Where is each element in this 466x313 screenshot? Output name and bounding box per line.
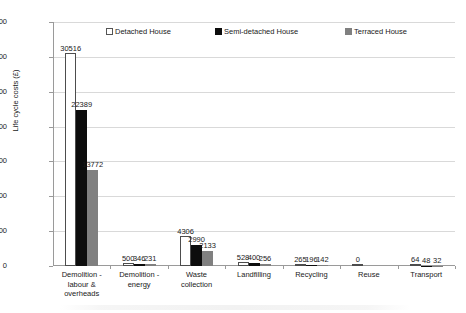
bar-chart: Life cycle costs (£) 0500010000150002000… <box>0 0 466 313</box>
bar[interactable]: 64 <box>410 264 421 266</box>
bar-value-label: 0 <box>356 256 360 264</box>
bar[interactable]: 500 <box>123 263 134 266</box>
legend-label-detached: Detached House <box>115 27 171 36</box>
x-axis-tick <box>283 266 284 269</box>
x-axis-category-label: Demolition -labour &overheads <box>53 270 110 299</box>
bar-value-label: 2133 <box>199 242 216 250</box>
bar[interactable]: 400 <box>249 263 260 266</box>
category-label-line: Reuse <box>340 270 397 280</box>
category-label-line: energy <box>110 280 167 290</box>
y-axis-tick-label: 35000 <box>0 18 7 26</box>
y-axis-tick-label: 30000 <box>0 53 7 61</box>
x-axis-tick <box>340 266 341 269</box>
bar-value-label: 256 <box>259 255 272 263</box>
x-axis-category-label: Recycling <box>283 270 340 280</box>
legend-label-semi-detached: Semi-detached House <box>224 27 298 36</box>
chart-legend: Detached House Semi-detached House Terra… <box>106 27 366 39</box>
bar[interactable]: 30516 <box>65 53 76 266</box>
category-label-line: Waste <box>168 270 225 280</box>
bar[interactable]: 13772 <box>87 170 98 266</box>
legend-item-detached-house: Detached House <box>106 27 171 36</box>
category-label-line: labour & <box>53 280 110 290</box>
bar[interactable]: 0 <box>352 264 363 266</box>
y-axis-line <box>53 22 54 266</box>
bar-value-label: 32 <box>433 257 441 265</box>
y-axis-tick-label: 20000 <box>0 123 7 131</box>
bar[interactable]: 231 <box>145 264 156 266</box>
category-label-line: Demolition - <box>110 270 167 280</box>
bar[interactable]: 196 <box>306 265 317 266</box>
page-bottom-artifact <box>60 305 410 310</box>
legend-label-terraced: Terraced House <box>354 27 407 36</box>
bar-value-label: 30516 <box>60 45 81 53</box>
y-axis-tick-label: 25000 <box>0 88 7 96</box>
y-axis-tick <box>49 266 53 267</box>
x-axis-category-label: Reuse <box>340 270 397 280</box>
bar[interactable]: 22389 <box>76 110 87 266</box>
y-axis-tick-label: 0 <box>0 262 7 270</box>
x-axis-category-label: Transport <box>398 270 455 280</box>
x-axis-tick <box>398 266 399 269</box>
bar[interactable]: 142 <box>317 265 328 266</box>
category-label-line: Transport <box>398 270 455 280</box>
bar-value-label: 64 <box>411 256 419 264</box>
category-label-line: Landfilling <box>225 270 282 280</box>
category-label-line: Demolition - <box>53 270 110 280</box>
x-axis-tick <box>110 266 111 269</box>
y-axis-tick-label: 5000 <box>0 227 7 235</box>
category-label-line: collection <box>168 280 225 290</box>
x-axis-tick <box>225 266 226 269</box>
bar-value-label: 22389 <box>71 101 92 109</box>
legend-item-terraced-house: Terraced House <box>345 27 407 36</box>
plot-area: 3051622389137725003462314306299021335284… <box>53 22 455 266</box>
category-label-line: overheads <box>53 289 110 299</box>
legend-swatch-terraced-icon <box>345 28 352 35</box>
bar-value-label: 142 <box>316 256 329 264</box>
y-axis-tick-label: 10000 <box>0 192 7 200</box>
bar-value-label: 231 <box>144 255 157 263</box>
x-axis-tick <box>168 266 169 269</box>
bar-value-label: 48 <box>422 257 430 265</box>
bar[interactable]: 265 <box>295 264 306 266</box>
legend-swatch-semi-detached-icon <box>215 28 222 35</box>
y-axis-tick-label: 15000 <box>0 157 7 165</box>
y-axis-title: Life cycle costs (£) <box>11 41 20 161</box>
bar[interactable]: 2133 <box>202 251 213 266</box>
x-axis-category-label: Wastecollection <box>168 270 225 289</box>
legend-item-semi-detached-house: Semi-detached House <box>215 27 298 36</box>
x-axis-category-label: Landfilling <box>225 270 282 280</box>
x-axis-category-label: Demolition -energy <box>110 270 167 289</box>
bar[interactable]: 528 <box>238 262 249 266</box>
bar[interactable]: 346 <box>134 264 145 266</box>
x-axis-tick <box>455 266 456 269</box>
category-label-line: Recycling <box>283 270 340 280</box>
bar[interactable]: 256 <box>260 264 271 266</box>
bar-value-label: 13772 <box>82 161 103 169</box>
legend-swatch-detached-icon <box>106 28 113 35</box>
